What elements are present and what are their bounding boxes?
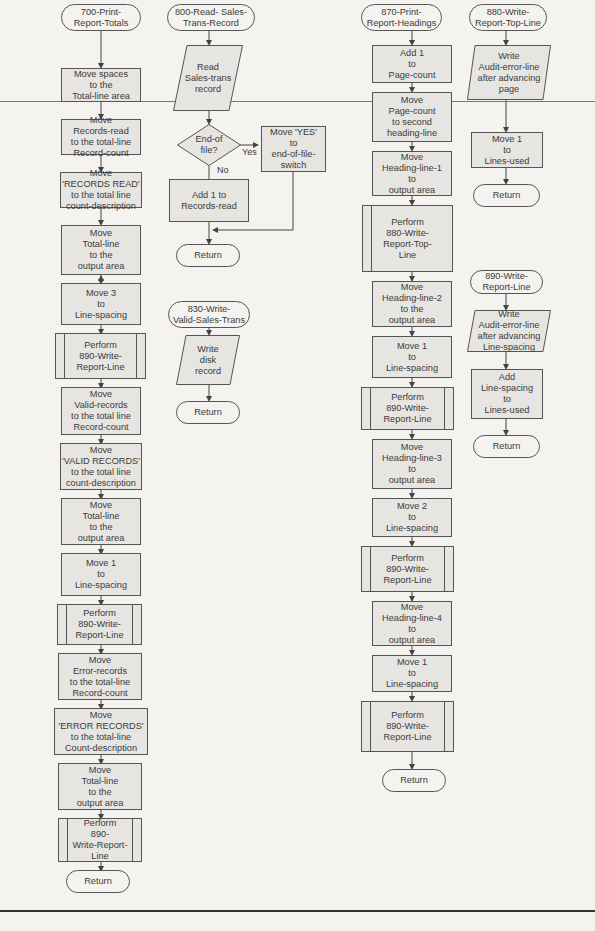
perform-890-write-report-line-2: Perform 890-Write- Report-Line bbox=[57, 604, 142, 645]
io-label: Write Audit-error-line after advancing p… bbox=[478, 51, 541, 95]
decision-end-of-file: End-of file? bbox=[177, 124, 241, 166]
process-move-valid-records-label: Move 'VALID RECORDS' to the total line c… bbox=[60, 443, 142, 490]
process-move-1-lines-used: Move 1 to Lines-used bbox=[471, 132, 543, 168]
process-move-total-line-2: Move Total-line to the output area bbox=[61, 498, 141, 545]
terminal-return-800: Return bbox=[176, 244, 240, 267]
process-move-valid-records: Move Valid-records to the total line Rec… bbox=[61, 387, 141, 435]
perform-890-write-report-line-c: Perform 890-Write- Report-Line bbox=[361, 701, 454, 752]
io-write-audit-error-line-page: Write Audit-error-line after advancing p… bbox=[467, 45, 551, 100]
terminal-830-write-valid-sales-trans: 830-Write- Valid-Sales-Trans bbox=[168, 301, 250, 328]
process-move-records-read: Move Records-read to the total-line Reco… bbox=[61, 119, 141, 155]
process-move-1-line-spacing-a: Move 1 to Line-spacing bbox=[372, 336, 452, 378]
perform-890-write-report-line-b: Perform 890-Write- Report-Line bbox=[361, 546, 454, 592]
terminal-return-700: Return bbox=[66, 870, 130, 893]
terminal-880-write-report-top-line: 880-Write- Report-Top-Line bbox=[469, 4, 547, 31]
io-label: Write Audit-error-line after advancing L… bbox=[478, 309, 541, 353]
process-move-spaces: Move spaces to the Total-line area bbox=[61, 68, 141, 102]
io-write-disk-record: Write disk record bbox=[176, 335, 240, 385]
process-move-yes-eof-switch: Move 'YES' to end-of-file- switch bbox=[261, 126, 326, 172]
process-move-2-line-spacing: Move 2 to Line-spacing bbox=[372, 498, 452, 537]
process-move-error-records-label: Move 'ERROR RECORDS' to the total-line C… bbox=[54, 708, 148, 755]
process-add-1-page-count: Add 1 to Page-count bbox=[372, 45, 452, 83]
terminal-870-print-report-headings: 870-Print- Report-Headings bbox=[361, 4, 442, 31]
perform-890-write-report-line-1: Perform 890-Write- Report-Line bbox=[55, 333, 146, 379]
process-move-error-records: Move Error-records to the total-line Rec… bbox=[58, 653, 142, 700]
io-label: Write disk record bbox=[195, 344, 221, 377]
terminal-return-830: Return bbox=[176, 401, 240, 424]
process-move-heading-line-2: Move Heading-line-2 to the output area bbox=[372, 281, 452, 327]
io-write-audit-error-line-spacing: Write Audit-error-line after advancing L… bbox=[467, 310, 551, 352]
perform-880-write-report-top-line: Perform 880-Write- Report-Top- Line bbox=[362, 205, 453, 272]
process-move-3-line-spacing: Move 3 to Line-spacing bbox=[61, 283, 141, 325]
io-label: Read Sales-trans record bbox=[185, 62, 231, 95]
process-move-heading-line-3: Move Heading-line-3 to output area bbox=[372, 439, 452, 489]
process-add-line-spacing-lines-used: Add Line-spacing to Lines-used bbox=[471, 369, 543, 419]
terminal-return-870: Return bbox=[382, 769, 446, 792]
process-move-total-line-3: Move Total-line to the output area bbox=[58, 763, 142, 810]
process-move-heading-line-1: Move Heading-line-1 to output area bbox=[372, 151, 452, 196]
process-move-heading-line-4: Move Heading-line-4 to output area bbox=[372, 601, 452, 646]
process-move-1-line-spacing: Move 1 to Line-spacing bbox=[61, 553, 141, 596]
process-move-total-line-1: Move Total-line to the output area bbox=[61, 225, 141, 275]
terminal-800-read-sales-trans-record: 800-Read- Sales- Trans-Record bbox=[167, 4, 255, 31]
process-move-1-line-spacing-b: Move 1 to Line-spacing bbox=[372, 655, 452, 692]
process-move-records-read-label: Move 'RECORDS READ' to the total line co… bbox=[60, 172, 142, 208]
process-add-1-records-read: Add 1 to Records-read bbox=[169, 179, 249, 222]
perform-890-write-report-line-a: Perform 890-Write- Report-Line bbox=[361, 387, 454, 430]
terminal-890-write-report-line: 890-Write- Report-Line bbox=[470, 270, 543, 294]
io-read-sales-trans-record: Read Sales-trans record bbox=[173, 45, 243, 111]
process-move-page-count: Move Page-count to second heading-line bbox=[372, 92, 452, 142]
page-divider-rule bbox=[0, 910, 595, 912]
terminal-return-890: Return bbox=[473, 435, 540, 458]
no-label: No bbox=[217, 165, 229, 175]
terminal-700-print-report-totals: 700-Print- Report-Totals bbox=[61, 4, 141, 31]
yes-label: Yes bbox=[242, 147, 257, 157]
perform-890-write-report-line-3: Perform 890- Write-Report- Line bbox=[58, 818, 142, 862]
terminal-return-880: Return bbox=[473, 184, 540, 207]
decision-label: End-of file? bbox=[195, 134, 222, 156]
